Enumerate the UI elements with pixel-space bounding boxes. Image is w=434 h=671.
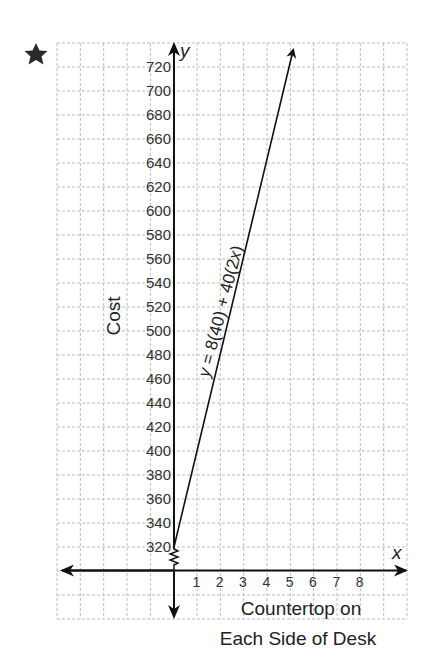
x-tick-label: 2 bbox=[216, 574, 224, 590]
y-tick-label: 620 bbox=[146, 178, 171, 195]
y-axis bbox=[170, 44, 178, 617]
y-tick-label: 480 bbox=[146, 346, 171, 363]
y-tick-label: 500 bbox=[146, 322, 171, 339]
y-tick-label: 680 bbox=[146, 106, 171, 123]
y-tick-label: 420 bbox=[146, 418, 171, 435]
y-axis-symbol: y bbox=[178, 40, 191, 61]
star-icon bbox=[25, 43, 48, 65]
y-tick-label: 700 bbox=[146, 82, 171, 99]
y-tick-label: 720 bbox=[146, 58, 171, 75]
y-axis-title: Cost bbox=[103, 296, 124, 336]
x-tick-label: 4 bbox=[262, 574, 270, 590]
y-tick-label: 640 bbox=[146, 154, 171, 171]
x-tick-label: 6 bbox=[309, 574, 317, 590]
x-tick-label: 5 bbox=[286, 574, 294, 590]
x-axis-title-line-2: Each Side of Desk bbox=[220, 628, 377, 649]
y-tick-label: 340 bbox=[146, 514, 171, 531]
y-tick-label: 540 bbox=[146, 274, 171, 291]
y-tick-label: 600 bbox=[146, 202, 171, 219]
y-tick-label: 560 bbox=[146, 250, 171, 267]
x-axis-title-line-1: Countertop on bbox=[241, 598, 361, 619]
y-tick-label: 580 bbox=[146, 226, 171, 243]
y-tick-label: 460 bbox=[146, 370, 171, 387]
x-tick-label: 7 bbox=[332, 574, 340, 590]
x-tick-label: 1 bbox=[192, 574, 200, 590]
x-axis-symbol: x bbox=[391, 542, 403, 563]
y-tick-label: 440 bbox=[146, 394, 171, 411]
x-tick-label: 3 bbox=[239, 574, 247, 590]
y-tick-labels: 3203403603804004204404604805005205405605… bbox=[146, 58, 171, 555]
y-tick-label: 380 bbox=[146, 466, 171, 483]
x-tick-labels: 12345678 bbox=[192, 574, 363, 590]
y-tick-label: 360 bbox=[146, 490, 171, 507]
y-tick-label: 320 bbox=[146, 538, 171, 555]
y-tick-label: 660 bbox=[146, 130, 171, 147]
cost-line-graph: y x 320340360380400420440460480500520540… bbox=[0, 0, 434, 671]
y-tick-label: 520 bbox=[146, 298, 171, 315]
x-tick-label: 8 bbox=[356, 574, 364, 590]
y-tick-label: 400 bbox=[146, 442, 171, 459]
